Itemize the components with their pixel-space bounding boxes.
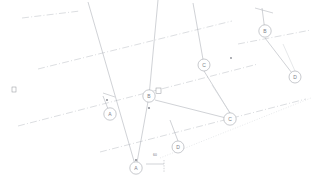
column-marker-center: [156, 88, 161, 94]
grid-bubble-d-1[interactable]: D: [289, 71, 301, 83]
member-d-lower: [170, 120, 178, 141]
centerline-3: [100, 99, 306, 152]
node-dot-intersect-1: [230, 57, 232, 59]
member-grid-line-b: [149, 0, 158, 96]
faint-line-center: [212, 85, 230, 113]
grid-bubble-a-4[interactable]: A: [104, 108, 116, 120]
column-marker-layer: [12, 87, 161, 94]
grid-bubble-b-0[interactable]: B: [259, 25, 271, 37]
dimension-value-label: 60: [153, 153, 157, 157]
grid-bubble-d-6[interactable]: D: [172, 141, 184, 153]
tick-top-right-1: [255, 8, 273, 13]
member-grid-line-c: [193, 3, 204, 65]
node-dot-center: [148, 107, 150, 109]
faint-line-layer: [212, 44, 295, 113]
member-grid-line-a: [88, 2, 136, 168]
dimension-annotation-layer: 60: [146, 153, 164, 172]
grid-bubble-c-2[interactable]: C: [198, 59, 210, 71]
node-dot-left: [106, 99, 108, 101]
faint-line-right: [283, 44, 295, 71]
grid-bubble-layer[interactable]: BDCBACDA: [104, 25, 301, 174]
column-marker-left: [12, 87, 16, 92]
grid-bubble-b-3[interactable]: B: [143, 90, 155, 102]
drawing-viewport[interactable]: 60 BDCBACDA: [0, 0, 311, 186]
grid-bubble-a-7[interactable]: A: [130, 162, 142, 174]
cad-drawing-canvas[interactable]: 60 BDCBACDA: [0, 0, 311, 186]
grid-bubble-label: D: [176, 144, 180, 150]
node-dot-lower: [135, 159, 137, 161]
tick-mark-layer: [103, 8, 273, 97]
grid-bubble-label: C: [202, 62, 206, 68]
centerline-right-top: [238, 30, 311, 44]
member-b-to-node: [136, 96, 149, 168]
member-c-to-d: [265, 38, 295, 77]
grid-bubble-c-5[interactable]: C: [224, 113, 236, 125]
member-b-to-c: [155, 100, 230, 119]
grid-bubble-label: C: [228, 116, 232, 122]
centerline-upper-left: [22, 11, 80, 18]
grid-bubble-label: D: [293, 74, 297, 80]
tick-mid-left-1: [103, 93, 115, 97]
